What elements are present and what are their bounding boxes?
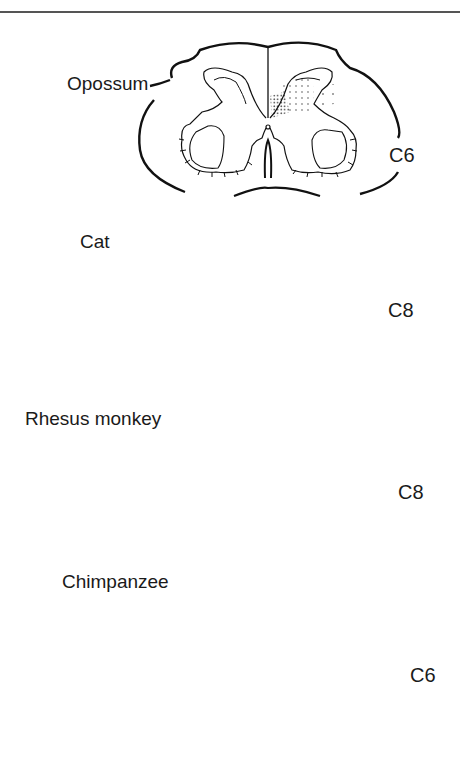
species-label-rhesus-monkey: Rhesus monkey [25, 409, 161, 429]
opossum-section [139, 43, 399, 196]
spinal-cord-sections-diagram [0, 0, 460, 761]
species-label-chimpanzee: Chimpanzee [62, 572, 169, 592]
segment-label-chimpanzee: C6 [410, 665, 436, 685]
species-label-opossum: Opossum [67, 74, 148, 94]
segment-label-rhesus-monkey: C8 [398, 482, 424, 502]
segment-label-opossum: C6 [389, 145, 415, 165]
species-label-cat: Cat [80, 232, 110, 252]
segment-label-cat: C8 [388, 300, 414, 320]
